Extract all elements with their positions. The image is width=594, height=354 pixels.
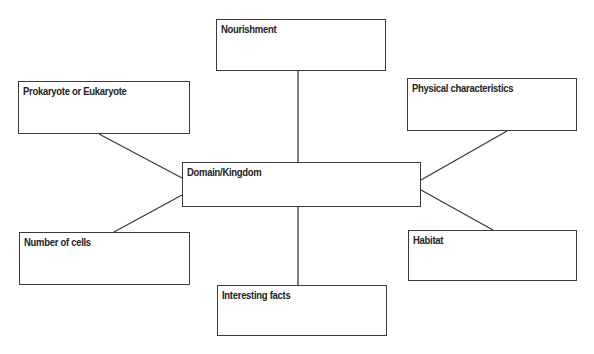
edge-habitat (421, 190, 493, 230)
node-label: Nourishment (221, 23, 276, 35)
node-label: Interesting facts (222, 289, 290, 301)
node-label: Prokaryote or Eukaryote (23, 85, 127, 97)
node-number-of-cells[interactable]: Number of cells (19, 232, 190, 285)
node-habitat[interactable]: Habitat (408, 230, 577, 281)
node-label: Physical characteristics (412, 82, 513, 94)
edge-prokaryote (99, 134, 182, 178)
node-physical-characteristics[interactable]: Physical characteristics (407, 78, 577, 131)
node-label: Habitat (413, 234, 443, 246)
edge-physical (421, 131, 507, 180)
node-interesting-facts[interactable]: Interesting facts (217, 285, 387, 336)
node-nourishment[interactable]: Nourishment (216, 19, 386, 71)
node-domain-kingdom[interactable]: Domain/Kingdom (182, 162, 421, 207)
node-prokaryote-or-eukaryote[interactable]: Prokaryote or Eukaryote (18, 81, 190, 134)
center-label: Domain/Kingdom (187, 166, 261, 178)
edge-cells (114, 195, 182, 232)
node-label: Number of cells (24, 236, 91, 248)
